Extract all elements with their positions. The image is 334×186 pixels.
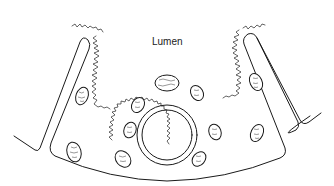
nucleus	[65, 141, 84, 164]
nucleus	[73, 85, 90, 106]
nucleus	[248, 122, 266, 143]
nucleus	[207, 122, 224, 141]
nucleus	[112, 148, 134, 171]
nucleus	[122, 120, 139, 139]
vessel-outer-wall	[137, 105, 197, 165]
vessel-inner-wall	[142, 110, 192, 160]
nucleus	[188, 83, 206, 103]
lumen-label: Lumen	[152, 36, 183, 47]
nucleus	[155, 75, 179, 91]
nucleus	[247, 71, 265, 92]
right-duct-foot	[257, 38, 321, 124]
left-duct-outer	[14, 34, 310, 182]
epithelium-diagram: Lumen	[0, 0, 334, 186]
nuclei	[65, 71, 267, 170]
